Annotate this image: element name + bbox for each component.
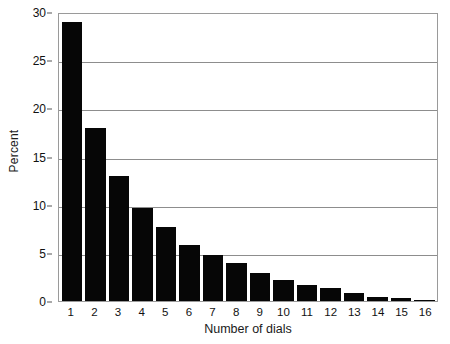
bar-cell bbox=[84, 14, 108, 301]
y-axis-tick-mark bbox=[47, 61, 52, 62]
x-axis-tick-label: 4 bbox=[130, 303, 154, 323]
bar bbox=[250, 273, 271, 301]
plot-area bbox=[58, 13, 438, 302]
bar-cell bbox=[154, 14, 178, 301]
bar-cell bbox=[366, 14, 390, 301]
x-axis-tick-label: 16 bbox=[413, 303, 437, 323]
y-axis-tick-mark bbox=[47, 109, 52, 110]
bar bbox=[297, 285, 318, 301]
bar bbox=[320, 288, 341, 301]
x-axis-tick-label: 9 bbox=[248, 303, 272, 323]
bar-series bbox=[59, 14, 437, 301]
y-axis-tick-mark bbox=[47, 157, 52, 158]
bar bbox=[179, 245, 200, 301]
x-axis-tick-label: 5 bbox=[154, 303, 178, 323]
bar bbox=[391, 298, 412, 301]
x-axis-tick-label: 13 bbox=[343, 303, 367, 323]
x-axis-tick-label: 8 bbox=[224, 303, 248, 323]
x-axis-tick-label: 7 bbox=[201, 303, 225, 323]
bar-cell bbox=[319, 14, 343, 301]
y-axis-tick-label: 30 bbox=[33, 6, 46, 20]
bar bbox=[273, 280, 294, 301]
x-axis-tick-label: 15 bbox=[390, 303, 414, 323]
bar-cell bbox=[295, 14, 319, 301]
x-axis-tick-label: 11 bbox=[295, 303, 319, 323]
bar-cell bbox=[248, 14, 272, 301]
bar bbox=[203, 255, 224, 301]
y-axis-tick-label: 20 bbox=[33, 102, 46, 116]
bar-cell bbox=[389, 14, 413, 301]
bar bbox=[156, 227, 177, 301]
bar bbox=[344, 293, 365, 301]
y-axis-tick-label: 25 bbox=[33, 54, 46, 68]
x-axis-title: Number of dials bbox=[58, 322, 438, 336]
bar-cell bbox=[272, 14, 296, 301]
y-axis-tick-label: 5 bbox=[39, 247, 46, 261]
bar bbox=[62, 22, 83, 301]
bar-cell bbox=[60, 14, 84, 301]
bar bbox=[109, 176, 130, 301]
y-axis-tick-mark bbox=[47, 13, 52, 14]
bar-cell bbox=[413, 14, 437, 301]
bar-cell bbox=[131, 14, 155, 301]
y-axis-tick-label: 15 bbox=[33, 151, 46, 165]
y-axis-tick-mark bbox=[47, 253, 52, 254]
y-axis-tick-label: 10 bbox=[33, 199, 46, 213]
x-axis-tick-label: 10 bbox=[272, 303, 296, 323]
y-axis-tick-label: 0 bbox=[39, 295, 46, 309]
x-axis-tick-label: 12 bbox=[319, 303, 343, 323]
y-axis-tick-labels: 051015202530 bbox=[20, 0, 52, 344]
y-axis-tick-mark bbox=[47, 302, 52, 303]
bar bbox=[367, 297, 388, 301]
bar bbox=[414, 300, 435, 301]
bar-cell bbox=[342, 14, 366, 301]
x-axis-tick-label: 14 bbox=[366, 303, 390, 323]
x-axis-tick-label: 2 bbox=[83, 303, 107, 323]
x-axis-tick-label: 1 bbox=[59, 303, 83, 323]
bar-chart-figure: Percent 051015202530 1234567891011121314… bbox=[0, 0, 450, 344]
x-axis-tick-label: 3 bbox=[106, 303, 130, 323]
x-axis-tick-labels: 12345678910111213141516 bbox=[58, 303, 438, 323]
bar-cell bbox=[201, 14, 225, 301]
bar bbox=[85, 128, 106, 301]
y-axis-title-text: Percent bbox=[7, 130, 21, 173]
bar bbox=[226, 263, 247, 301]
bar bbox=[132, 208, 153, 301]
bar-cell bbox=[107, 14, 131, 301]
y-axis-tick-mark bbox=[47, 205, 52, 206]
x-axis-tick-label: 6 bbox=[177, 303, 201, 323]
bar-cell bbox=[225, 14, 249, 301]
bar-cell bbox=[178, 14, 202, 301]
